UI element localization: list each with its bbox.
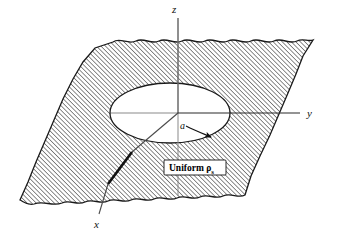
y-axis-label: y (306, 107, 312, 119)
figure-container: z y x a Uniform ρs (0, 0, 338, 236)
charged-sheet (0, 0, 338, 236)
x-axis-label: x (93, 218, 99, 230)
density-label: Uniform ρs (164, 160, 226, 176)
charged-plane-diagram: z y x a Uniform ρs (0, 0, 338, 236)
density-label-subscript: s (211, 168, 214, 176)
z-axis-label: z (171, 3, 177, 15)
radius-label: a (180, 120, 185, 131)
sheet-hatching (0, 0, 338, 236)
density-label-word: Uniform (169, 163, 206, 173)
